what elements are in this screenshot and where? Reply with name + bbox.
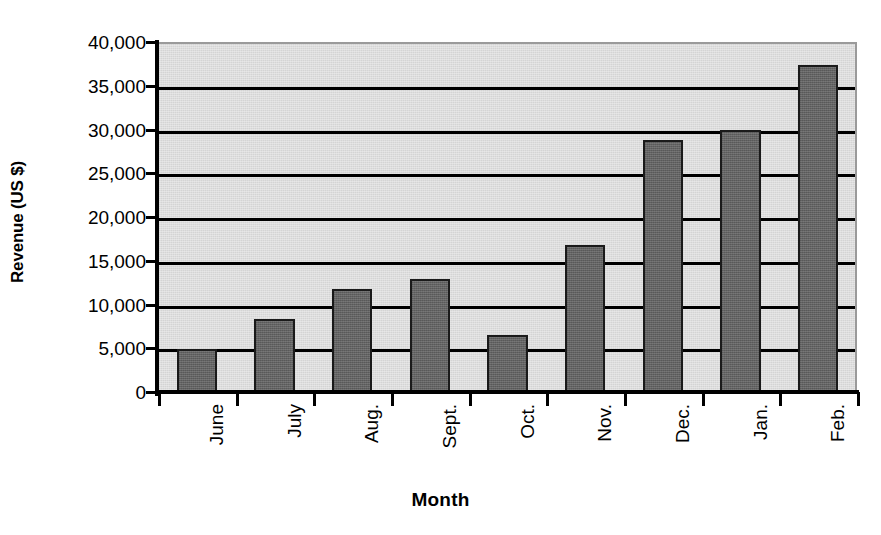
y-tick-label: 25,000	[48, 164, 146, 183]
y-tick-mark	[146, 129, 158, 132]
y-axis-title: Revenue (US $)	[8, 122, 28, 322]
y-axis-tick-labels: 40,000 35,000 30,000 25,000 20,000 15,00…	[48, 0, 146, 535]
y-tick-label: 15,000	[48, 251, 146, 270]
x-tick-label: June	[206, 404, 228, 514]
y-tick-label: 20,000	[48, 208, 146, 227]
x-tick-mark	[469, 392, 472, 406]
y-tick-label: 40,000	[48, 33, 146, 52]
x-tick-label: Nov.	[594, 404, 616, 514]
y-tick-label: 35,000	[48, 76, 146, 95]
bar	[254, 319, 294, 392]
x-tick-mark	[779, 392, 782, 406]
gridline	[158, 87, 855, 90]
bar	[487, 335, 527, 392]
x-tick-mark	[624, 392, 627, 406]
x-tick-mark	[236, 392, 239, 406]
y-tick-mark	[146, 41, 158, 44]
y-tick-mark	[146, 347, 158, 350]
x-tick-mark	[313, 392, 316, 406]
x-tick-mark	[158, 392, 161, 406]
x-axis-line	[155, 390, 859, 394]
bar	[643, 140, 683, 392]
x-tick-label: Sept.	[439, 404, 461, 514]
bar-chart: Revenue (US $) 40,000 35,000 30,000 25,0…	[0, 0, 881, 535]
x-tick-mark	[857, 392, 860, 406]
bar	[565, 245, 605, 392]
bar	[177, 349, 217, 392]
bar	[410, 279, 450, 392]
y-tick-label: 10,000	[48, 295, 146, 314]
x-tick-mark	[546, 392, 549, 406]
bar	[332, 289, 372, 392]
plot-area	[158, 42, 857, 392]
bar	[720, 130, 760, 392]
x-tick-mark	[391, 392, 394, 406]
y-tick-label: 5,000	[48, 339, 146, 358]
y-tick-label: 30,000	[48, 120, 146, 139]
x-tick-label: Feb.	[827, 404, 849, 514]
y-tick-mark	[146, 216, 158, 219]
y-tick-mark	[146, 260, 158, 263]
x-tick-label: Jan.	[750, 404, 772, 514]
x-tick-label: July	[284, 404, 306, 514]
x-tick-label: Dec.	[672, 404, 694, 514]
y-tick-mark	[146, 304, 158, 307]
y-tick-label: 0	[48, 383, 146, 402]
bar	[798, 65, 838, 392]
y-tick-mark	[146, 172, 158, 175]
x-tick-label: Oct.	[517, 404, 539, 514]
y-tick-mark	[146, 391, 158, 394]
x-tick-label: Aug.	[361, 404, 383, 514]
y-tick-mark	[146, 85, 158, 88]
x-tick-mark	[702, 392, 705, 406]
